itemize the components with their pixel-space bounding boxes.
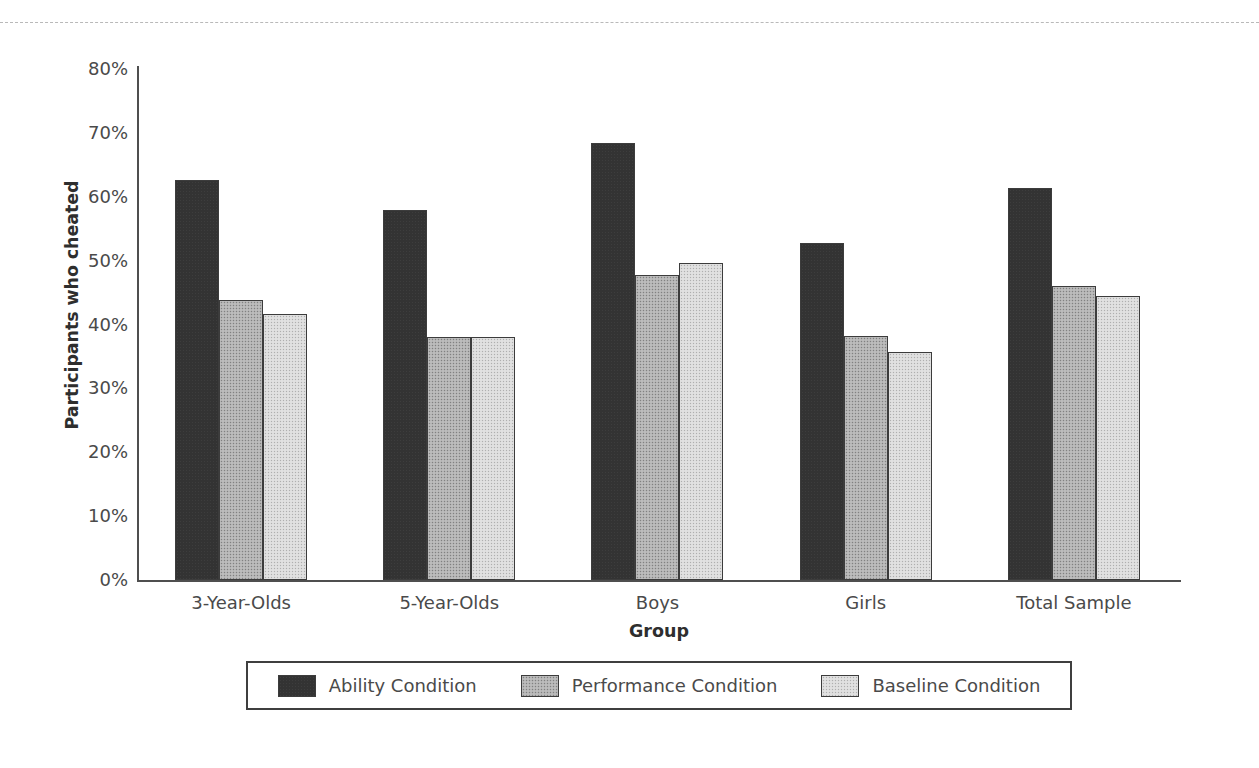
bar	[427, 337, 471, 580]
legend-label: Baseline Condition	[872, 675, 1040, 696]
bar-chart-figure: Participants who cheated 80%70%60%50%40%…	[0, 0, 1259, 768]
y-axis-tick-label: 0%	[58, 571, 128, 589]
bar	[679, 263, 723, 580]
bar	[844, 336, 888, 580]
x-axis-tick-label: Boys	[538, 592, 778, 613]
chart-legend: Ability ConditionPerformance ConditionBa…	[246, 661, 1072, 710]
legend-label: Performance Condition	[572, 675, 778, 696]
bar	[263, 314, 307, 580]
x-axis-tick-label: 5-Year-Olds	[329, 592, 569, 613]
y-axis-tick-label: 20%	[58, 443, 128, 461]
bar	[635, 275, 679, 580]
legend-swatch	[278, 675, 316, 697]
legend-swatch	[821, 675, 859, 697]
legend-item: Performance Condition	[521, 675, 778, 697]
y-axis-tick-label: 80%	[58, 60, 128, 78]
bar	[1096, 296, 1140, 580]
legend-item: Baseline Condition	[821, 675, 1040, 697]
legend-swatch	[521, 675, 559, 697]
bar-group	[553, 69, 761, 580]
bar	[1008, 188, 1052, 580]
y-axis-tick-label: 60%	[58, 188, 128, 206]
y-axis-tick-label: 40%	[58, 316, 128, 334]
x-axis-tick-label: 3-Year-Olds	[121, 592, 361, 613]
bar	[219, 300, 263, 580]
bar	[591, 143, 635, 580]
x-axis-tick-label: Girls	[746, 592, 986, 613]
bar	[888, 352, 932, 580]
bar	[800, 243, 844, 580]
bar	[471, 337, 515, 580]
y-axis-tick-label: 50%	[58, 252, 128, 270]
y-axis-tick-label: 30%	[58, 379, 128, 397]
bar-group	[970, 69, 1178, 580]
x-axis-tick-label: Total Sample	[954, 592, 1194, 613]
y-axis-tick-labels: 80%70%60%50%40%30%20%10%0%	[58, 0, 128, 768]
y-axis-tick-label: 10%	[58, 507, 128, 525]
bar	[383, 210, 427, 580]
bar-group	[137, 69, 345, 580]
bar-group	[345, 69, 553, 580]
plot-area	[137, 69, 1178, 580]
bar-group	[762, 69, 970, 580]
legend-item: Ability Condition	[278, 675, 477, 697]
bar	[175, 180, 219, 580]
bar	[1052, 286, 1096, 580]
legend-label: Ability Condition	[329, 675, 477, 696]
x-axis-line	[137, 580, 1181, 582]
y-axis-tick-label: 70%	[58, 124, 128, 142]
x-axis-title: Group	[137, 621, 1181, 641]
